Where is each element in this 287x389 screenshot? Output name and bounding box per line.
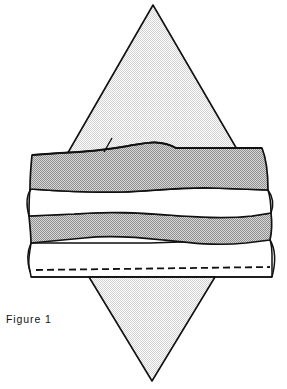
figure-container: Figure 1 <box>0 0 287 389</box>
upper-triangle <box>62 5 245 163</box>
upper-gray-band <box>30 142 268 192</box>
figure-caption: Figure 1 <box>6 313 52 325</box>
figure-illustration <box>0 0 287 389</box>
lower-triangle <box>89 277 215 381</box>
upper-gray-band-shape <box>30 142 268 192</box>
middle-white-band <box>29 188 271 218</box>
bottom-white-band-shape <box>29 239 272 277</box>
middle-white-band-shape <box>29 188 271 218</box>
upper-triangle-shape <box>62 5 245 163</box>
lower-triangle-shape <box>89 277 215 381</box>
bottom-white-band <box>29 239 272 277</box>
